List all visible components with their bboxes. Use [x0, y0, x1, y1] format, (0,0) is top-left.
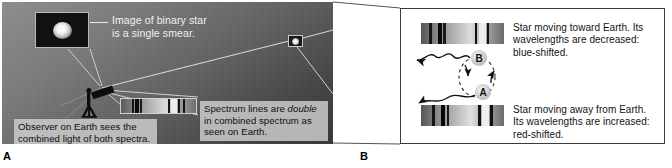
spectrum-absorption-line — [140, 99, 142, 113]
binary-star-image-label-line2: is a single smear. — [112, 27, 237, 40]
combined-spectrum-bands — [121, 99, 196, 113]
binary-orbit-diagram: B A — [407, 45, 511, 109]
spectrum-bright-band — [171, 99, 177, 113]
panel-a-letter: A — [3, 150, 11, 162]
telescope-icon — [78, 82, 118, 118]
blue-shift-caption-line1: Star moving toward Earth. Its — [513, 22, 661, 34]
spectrum-double-note-plate: Spectrum lines are double in combined sp… — [200, 101, 328, 141]
observer-note-plate: Observer on Earth sees the combined ligh… — [14, 119, 157, 144]
spectrum-absorption-line — [183, 99, 185, 113]
spectrum-absorption-line — [438, 23, 442, 44]
spectrum-absorption-line — [168, 99, 170, 113]
light-wave-blue-shifted — [417, 54, 470, 60]
panel-b-doppler-detail: B A Star moving toward Earth. Its wavele… — [400, 8, 665, 144]
light-ray-main — [102, 41, 289, 88]
spectrum-absorption-line — [178, 99, 180, 113]
spectrum-double-note-line2: in combined spectrum as — [204, 115, 324, 127]
blue-shifted-spectrum-strip — [421, 23, 504, 44]
spectrum-double-note-line3: seen on Earth. — [204, 126, 324, 138]
blue-shifted-spectrum-bands — [421, 23, 504, 44]
blue-shift-caption: Star moving toward Earth. Its wavelength… — [513, 22, 661, 59]
light-ray-to-panel-b — [297, 47, 333, 94]
spectrum-double-note-emphasis: double — [288, 103, 317, 114]
red-shift-caption-line3: red-shifted. — [513, 129, 661, 141]
binary-star-image-inset — [35, 12, 89, 48]
orbit-arrow-right — [491, 71, 494, 83]
spectrum-absorption-line — [429, 23, 432, 44]
spectrum-absorption-line — [132, 99, 134, 113]
spectrum-absorption-line — [487, 23, 490, 44]
binary-star-callout-leader — [90, 22, 108, 23]
inset-ray-right — [90, 49, 102, 86]
spectrum-absorption-line — [475, 23, 477, 44]
connector-line-top — [333, 2, 400, 8]
star-smear-blob-icon — [53, 22, 72, 39]
red-shift-caption-line2: Its wavelengths are increased: — [513, 116, 661, 128]
inset-ray-left — [68, 49, 100, 86]
observer-note-line2: combined light of both spectra. — [18, 133, 153, 144]
panel-b-letter: B — [360, 150, 368, 162]
red-shift-caption-line1: Star moving away from Earth. — [513, 104, 661, 116]
light-wave-red-shifted — [419, 95, 475, 103]
spectrum-absorption-line — [443, 23, 446, 44]
orbit-arrow-left — [465, 65, 468, 76]
combined-spectrum-strip — [120, 98, 197, 114]
spectrum-bright-band — [479, 23, 486, 44]
spectrum-double-note-line1-pre: Spectrum lines are — [204, 103, 288, 114]
spectrum-absorption-line — [135, 99, 138, 113]
binary-star-image-label: Image of binary star is a single smear. — [112, 14, 237, 39]
binary-star-spectroscopy-figure: Image of binary star is a single smear. — [0, 0, 672, 168]
red-shift-caption: Star moving away from Earth. Its wavelen… — [513, 104, 661, 141]
star-b-label: B — [475, 53, 482, 64]
observer-note-line1: Observer on Earth sees the — [18, 121, 153, 133]
distant-star-point-icon — [292, 38, 299, 45]
star-a-label: A — [479, 87, 486, 98]
blue-shift-caption-line2: wavelengths are decreased: — [513, 34, 661, 46]
panel-zoom-connector — [330, 0, 405, 168]
connector-line-bottom — [333, 143, 400, 144]
panel-a-observation-scene: Image of binary star is a single smear. — [2, 2, 333, 144]
light-ray-extension — [303, 30, 333, 38]
binary-star-image-label-line1: Image of binary star — [112, 14, 237, 27]
blue-shift-caption-line3: blue-shifted. — [513, 47, 661, 59]
spectrum-double-note-line1: Spectrum lines are double — [204, 103, 324, 115]
distant-binary-star-box — [288, 35, 303, 47]
